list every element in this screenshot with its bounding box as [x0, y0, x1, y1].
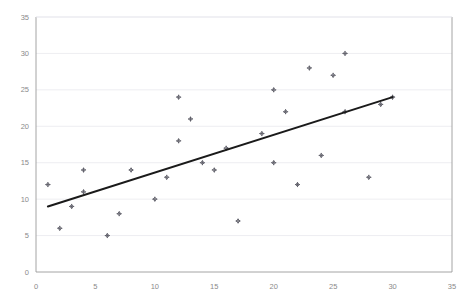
data-point: [319, 153, 324, 158]
y-tick-label: 20: [21, 122, 29, 131]
data-point: [271, 160, 276, 165]
x-tick-label: 10: [151, 282, 159, 291]
data-point: [331, 73, 336, 78]
trend-line: [48, 97, 393, 206]
data-point: [200, 160, 205, 165]
y-tick-label: 5: [25, 231, 29, 240]
plot-canvas: 05101520253035 05101520253035: [0, 0, 468, 303]
data-point: [176, 95, 181, 100]
y-tick-label: 15: [21, 158, 29, 167]
x-tick-label: 30: [388, 282, 396, 291]
data-point: [188, 117, 193, 122]
data-point: [129, 168, 134, 173]
trend-line-group: [48, 97, 393, 206]
y-tick-label: 0: [25, 268, 29, 277]
data-point: [69, 204, 74, 209]
y-tick-label: 35: [21, 13, 29, 22]
data-point: [117, 211, 122, 216]
data-point: [164, 175, 169, 180]
data-point: [283, 109, 288, 114]
data-points-group: [45, 51, 395, 238]
data-point: [57, 226, 62, 231]
gridlines-group: [36, 17, 452, 236]
data-point: [212, 168, 217, 173]
data-point: [152, 197, 157, 202]
x-tick-label: 35: [448, 282, 456, 291]
x-tick-label: 20: [270, 282, 278, 291]
scatter-chart: 05101520253035 05101520253035: [0, 0, 468, 303]
x-axis-tick-labels: 05101520253035: [34, 282, 456, 291]
data-point: [236, 219, 241, 224]
data-point: [343, 51, 348, 56]
data-point: [271, 87, 276, 92]
y-tick-label: 30: [21, 49, 29, 58]
data-point: [295, 182, 300, 187]
x-tick-label: 5: [93, 282, 97, 291]
y-tick-label: 10: [21, 195, 29, 204]
x-tick-label: 25: [329, 282, 337, 291]
data-point: [105, 233, 110, 238]
data-point: [176, 138, 181, 143]
x-tick-label: 0: [34, 282, 38, 291]
data-point: [307, 66, 312, 71]
y-axis-tick-labels: 05101520253035: [21, 13, 29, 277]
data-point: [81, 168, 86, 173]
data-point: [366, 175, 371, 180]
y-tick-label: 25: [21, 85, 29, 94]
data-point: [45, 182, 50, 187]
data-point: [259, 131, 264, 136]
x-tick-label: 15: [210, 282, 218, 291]
data-point: [378, 102, 383, 107]
